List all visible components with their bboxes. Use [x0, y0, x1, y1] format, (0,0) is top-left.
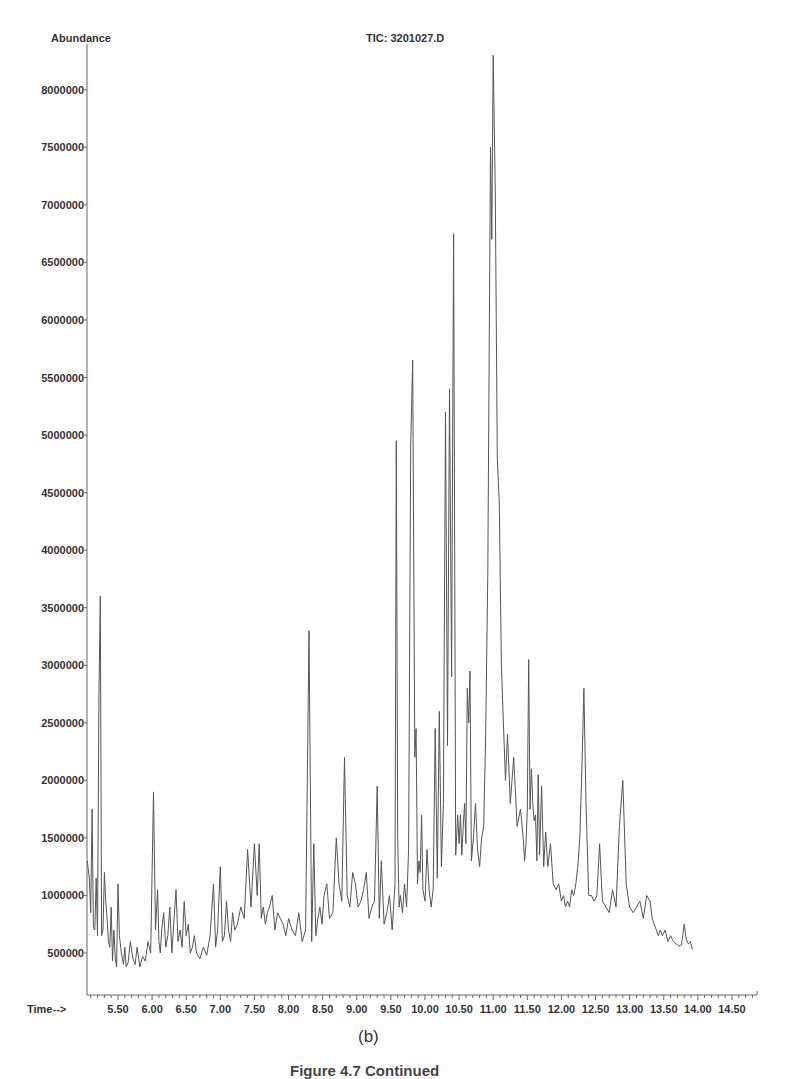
tic-trace — [87, 55, 692, 967]
